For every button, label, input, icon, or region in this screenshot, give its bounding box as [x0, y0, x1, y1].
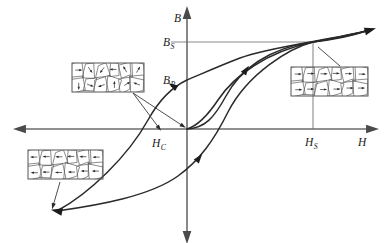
lower-ascending-branch: [57, 31, 366, 211]
hysteresis-figure: BHBSBRHSHC: [0, 0, 388, 243]
microstructure-inset-positive-saturation: [289, 64, 369, 98]
marker-label-hc: HC: [151, 137, 167, 152]
leader-from-left-inset-to-negative-end-arrowhead: [52, 203, 56, 210]
leader-from-left-inset-to-negative-end: [53, 182, 60, 206]
curves-group: [51, 28, 376, 216]
leader-to-origin-point: [133, 93, 183, 126]
leader-to-origin-point-arrowhead: [179, 123, 185, 128]
microstructure-insets-group: [26, 60, 369, 181]
microstructure-inset-demagnetized: [70, 60, 145, 94]
marker-label-br: BR: [163, 74, 176, 89]
marker-label-bs-subscript: S: [171, 42, 175, 51]
upper-descending-branch: [57, 31, 366, 211]
b-axis-arrow-up: [183, 6, 192, 19]
h-axis-arrow-right: [366, 125, 379, 134]
leader-from-saturation-to-right-inset: [318, 47, 340, 66]
h-axis-label: H: [357, 136, 367, 148]
marker-label-hs-subscript: S: [314, 142, 318, 151]
negative-saturation-arrowhead: [51, 208, 63, 216]
b-axis-arrow-down: [183, 231, 192, 243]
b-axis-label: B: [174, 12, 181, 24]
positive-saturation-arrowhead: [364, 28, 376, 35]
microstructure-inset-positive-saturation-frame: [291, 67, 368, 96]
microstructure-inset-negative-saturation: [26, 147, 104, 181]
microstructure-inset-negative-saturation-frame: [28, 150, 103, 179]
hysteresis-diagram-canvas: BHBSBRHSHC: [0, 0, 388, 243]
h-axis-arrow-left: [13, 125, 26, 134]
marker-label-bs: BS: [163, 36, 175, 51]
microstructure-inset-demagnetized-frame: [72, 63, 144, 92]
marker-label-hs: HS: [304, 136, 318, 151]
marker-label-hc-subscript: C: [161, 143, 167, 152]
marker-label-br-subscript: R: [170, 80, 176, 89]
